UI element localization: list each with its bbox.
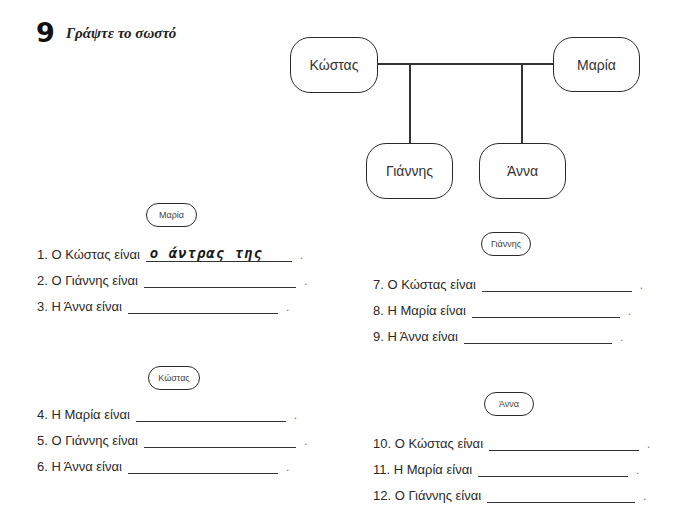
exercise-row: 2. Ο Γιάννης είναι . [37, 268, 307, 288]
period: . [304, 274, 307, 288]
period: . [286, 460, 289, 474]
answer-field[interactable] [464, 326, 612, 344]
answer-field[interactable] [482, 274, 632, 292]
exercise-title: Γράψτε το σωστό [66, 22, 176, 44]
answer-field[interactable]: ο άντρας της [146, 244, 292, 262]
row-prompt: 1. Ο Κώστας είναι [37, 247, 140, 262]
period: . [647, 437, 650, 451]
section-label-text: Γιάννης [491, 239, 521, 249]
exercise-number: 9 [36, 18, 55, 48]
answer-field[interactable] [128, 456, 278, 474]
period: . [300, 248, 303, 262]
exercise-row: 12. Ο Γιάννης είναι . [373, 483, 646, 503]
answer-field[interactable] [489, 433, 639, 451]
period: . [294, 408, 297, 422]
exercise-row: 8. Η Μαρία είναι . [373, 298, 631, 318]
section-label-text: Άννα [499, 399, 519, 409]
row-prompt: 3. Η Άννα είναι [37, 299, 122, 314]
tree-node-maria: Μαρία [553, 37, 640, 92]
row-prompt: 6. Η Άννα είναι [37, 459, 122, 474]
section-label-kostas: Κώστας [148, 366, 200, 390]
section-label-giannis: Γιάννης [481, 232, 531, 256]
answer-field[interactable] [487, 485, 635, 503]
row-prompt: 2. Ο Γιάννης είναι [37, 273, 138, 288]
tree-node-label: Κώστας [310, 57, 359, 73]
row-prompt: 11. Η Μαρία είναι [373, 462, 472, 477]
exercise-row: 3. Η Άννα είναι . [37, 294, 289, 314]
row-prompt: 9. Η Άννα είναι [373, 329, 458, 344]
period: . [620, 330, 623, 344]
row-prompt: 12. Ο Γιάννης είναι [373, 488, 481, 503]
exercise-row: 5. Ο Γιάννης είναι . [37, 428, 307, 448]
period: . [643, 489, 646, 503]
section-label-text: Κώστας [158, 373, 189, 383]
exercise-row: 1. Ο Κώστας είναι ο άντρας της . [37, 242, 303, 262]
section-label-text: Μαρία [159, 210, 184, 220]
tree-node-label: Άννα [507, 163, 538, 179]
tree-node-kostas: Κώστας [290, 37, 378, 93]
row-prompt: 7. Ο Κώστας είναι [373, 277, 476, 292]
exercise-row: 11. Η Μαρία είναι . [373, 457, 639, 477]
answer-field[interactable] [478, 459, 628, 477]
period: . [286, 300, 289, 314]
child-line-anna [521, 63, 523, 144]
exercise-row: 4. Η Μαρία είναι . [37, 402, 297, 422]
child-line-giannis [409, 63, 411, 144]
row-prompt: 5. Ο Γιάννης είναι [37, 433, 138, 448]
row-prompt: 4. Η Μαρία είναι [37, 407, 130, 422]
row-prompt: 10. Ο Κώστας είναι [373, 436, 483, 451]
period: . [304, 434, 307, 448]
tree-node-label: Μαρία [577, 57, 616, 73]
exercise-row: 9. Η Άννα είναι . [373, 324, 623, 344]
answer-field[interactable] [128, 296, 278, 314]
exercise-row: 7. Ο Κώστας είναι . [373, 272, 643, 292]
period: . [628, 304, 631, 318]
answer-field[interactable] [144, 270, 296, 288]
exercise-row: 10. Ο Κώστας είναι . [373, 431, 650, 451]
exercise-row: 6. Η Άννα είναι . [37, 454, 289, 474]
section-label-maria: Μαρία [146, 203, 197, 227]
answer-text: ο άντρας της [150, 245, 263, 261]
period: . [636, 463, 639, 477]
tree-node-giannis: Γιάννης [366, 143, 453, 199]
row-prompt: 8. Η Μαρία είναι [373, 303, 466, 318]
answer-field[interactable] [136, 404, 286, 422]
period: . [640, 278, 643, 292]
tree-node-label: Γιάννης [386, 163, 433, 179]
section-label-anna: Άννα [484, 392, 534, 416]
tree-node-anna: Άννα [479, 143, 566, 199]
marriage-line [377, 63, 554, 65]
answer-field[interactable] [144, 430, 296, 448]
answer-field[interactable] [472, 300, 620, 318]
